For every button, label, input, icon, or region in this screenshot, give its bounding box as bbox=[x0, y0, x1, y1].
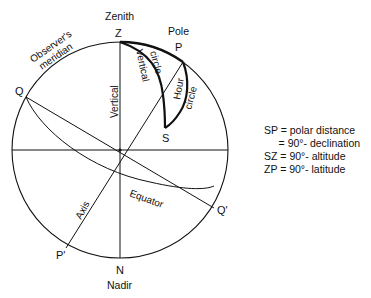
n-label: N bbox=[116, 264, 124, 276]
equator-label: Equator bbox=[128, 188, 165, 211]
p-prime-label: P' bbox=[56, 249, 65, 261]
pole-label: Pole bbox=[168, 25, 189, 37]
legend: SP = polar distance = 90°- declination S… bbox=[264, 124, 360, 176]
q-label: Q bbox=[15, 85, 24, 97]
axis-label: Axis bbox=[73, 199, 92, 221]
legend-line-sp: SP = polar distance bbox=[264, 124, 360, 137]
legend-line-sp-declination: = 90°- declination bbox=[264, 137, 360, 150]
zenith-label: Zenith bbox=[105, 10, 134, 22]
legend-line-zp: ZP = 90°- latitude bbox=[264, 163, 360, 176]
z-label: Z bbox=[115, 27, 122, 39]
center-point bbox=[118, 148, 121, 151]
vertical-line-label: Vertical bbox=[109, 85, 120, 118]
q-prime-label: Q' bbox=[217, 204, 228, 216]
hour-circle-label-1: Hour bbox=[171, 76, 186, 100]
s-label: S bbox=[162, 132, 169, 144]
legend-line-sz: SZ = 90°- altitude bbox=[264, 150, 360, 163]
nadir-label: Nadir bbox=[107, 279, 133, 291]
axis-line bbox=[66, 62, 183, 248]
hour-circle-label-2: circle bbox=[182, 85, 199, 111]
p-label: P bbox=[175, 41, 182, 53]
